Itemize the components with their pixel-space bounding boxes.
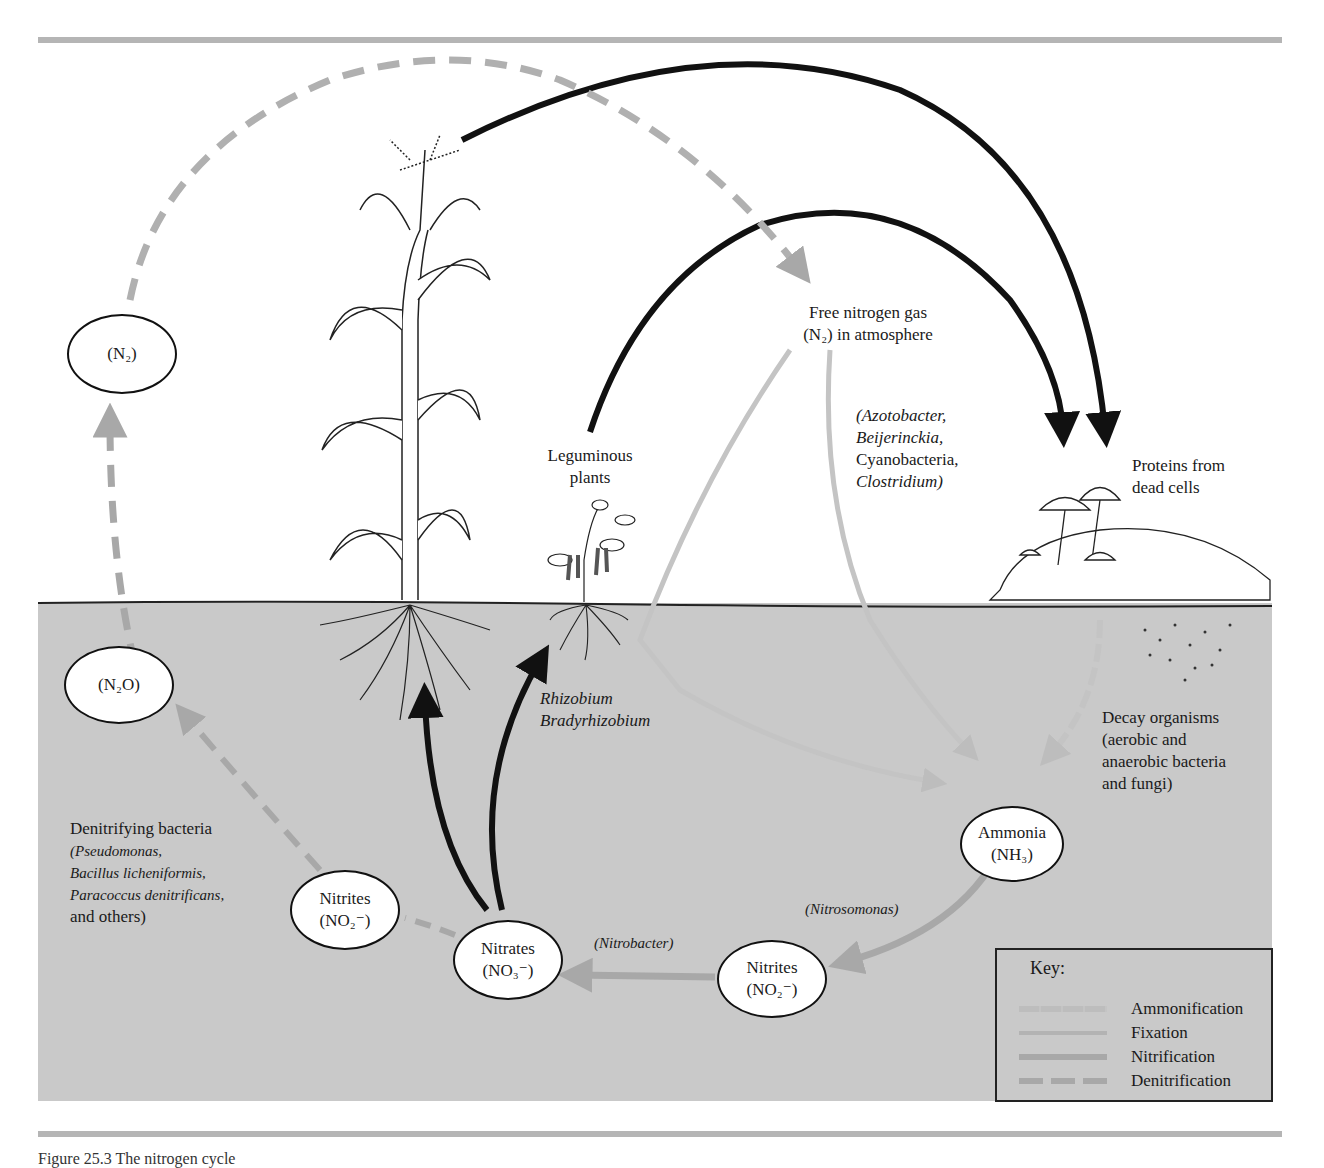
- denitrifying-others: and others): [70, 906, 224, 928]
- node-nitrates-line1: Nitrates: [481, 938, 535, 960]
- node-nitrites-left-line2: (NO₂⁻): [320, 910, 371, 932]
- nitrobacter-label: (Nitrobacter): [594, 932, 673, 954]
- arrow-ammonification-decay-to-ammonia: [1050, 620, 1100, 755]
- legume-plant-illustration: [548, 500, 635, 602]
- node-nitrates: Nitrates (NO₃⁻): [453, 920, 563, 1000]
- fixers-cyanobacteria: Cyanobacteria,: [856, 449, 958, 471]
- arrow-nitrates-to-legume-roots: [492, 660, 540, 910]
- free-living-fixers-label: (Azotobacter, Beijerinckia, Cyanobacteri…: [856, 405, 958, 493]
- legume-roots-illustration: [550, 605, 628, 660]
- node-n2: (N₂): [67, 314, 177, 394]
- rhizobium-label: Rhizobium Bradyrhizobium: [540, 688, 650, 732]
- figure-caption: Figure 25.3 The nitrogen cycle: [38, 1150, 235, 1168]
- rhizobium-text: Rhizobium: [540, 688, 650, 710]
- node-ammonia: Ammonia (NH₃): [960, 806, 1064, 882]
- leguminous-plants-label: Leguminous plants: [525, 445, 655, 489]
- node-nitrites-left-line1: Nitrites: [320, 888, 371, 910]
- fixers-azotobacter: (Azotobacter,: [856, 405, 958, 427]
- proteins-label: Proteins from dead cells: [1132, 455, 1225, 499]
- denitrifying-paracoccus: Paracoccus denitrificans,: [70, 884, 224, 906]
- bottom-rule: [38, 1131, 1282, 1137]
- denitrifying-line1: Denitrifying bacteria: [70, 818, 224, 840]
- node-nitrites-right-line2: (NO₂⁻): [747, 979, 798, 1001]
- legend-item-nitrification: Nitrification: [1019, 1046, 1215, 1068]
- node-nitrites-left: Nitrites (NO₂⁻): [290, 870, 400, 950]
- arrow-nitrates-to-corn-roots: [425, 700, 487, 910]
- decay-line3: anaerobic bacteria: [1102, 751, 1226, 773]
- node-n2o: (N₂O): [64, 646, 174, 724]
- leguminous-line2: plants: [525, 467, 655, 489]
- atmosphere-title-line1: Free nitrogen gas: [738, 302, 998, 324]
- decaying-log-illustration: [990, 488, 1270, 601]
- fixers-clostridium: Clostridium): [856, 471, 958, 493]
- legend-label: Ammonification: [1131, 999, 1243, 1019]
- denitrifying-bacillus: Bacillus licheniformis,: [70, 862, 224, 884]
- legend-label: Nitrification: [1131, 1047, 1215, 1067]
- decay-organisms-label: Decay organisms (aerobic and anaerobic b…: [1102, 707, 1226, 795]
- arrow-denitrification-nitrates-to-nitrites: [405, 918, 455, 935]
- nitrification-swatch-icon: [1019, 1054, 1107, 1060]
- arrow-corn-to-proteins: [462, 64, 1105, 430]
- node-nitrites-right: Nitrites (NO₂⁻): [717, 940, 827, 1018]
- legend-item-ammonification: Ammonification: [1019, 998, 1243, 1020]
- corn-plant-illustration: [322, 135, 490, 600]
- proteins-line1: Proteins from: [1132, 455, 1225, 477]
- fixation-swatch-icon: [1019, 1031, 1107, 1035]
- bradyrhizobium-text: Bradyrhizobium: [540, 710, 650, 732]
- node-ammonia-line1: Ammonia: [978, 822, 1046, 844]
- proteins-line2: dead cells: [1132, 477, 1225, 499]
- arrow-denitrification-n2o-to-n2: [110, 420, 135, 665]
- legend-key: Key: Ammonification Fixation Nitrificati…: [995, 948, 1273, 1102]
- legend-item-fixation: Fixation: [1019, 1022, 1188, 1044]
- decay-line4: and fungi): [1102, 773, 1226, 795]
- atmosphere-title-line2: (N₂) in atmosphere: [738, 324, 998, 346]
- ammonification-swatch-icon: [1019, 1006, 1107, 1012]
- denitrification-swatch-icon: [1019, 1078, 1107, 1084]
- node-nitrates-line2: (NO₃⁻): [483, 960, 534, 982]
- node-ammonia-line2: (NH₃): [991, 844, 1033, 866]
- arrow-nitrification-nitrites-to-nitrates: [575, 975, 715, 977]
- legend-title: Key:: [1030, 958, 1065, 979]
- node-nitrites-right-line1: Nitrites: [747, 957, 798, 979]
- node-n2o-label: (N₂O): [98, 674, 140, 696]
- decay-organisms-illustration: [1144, 624, 1232, 682]
- denitrifying-pseudomonas: (Pseudomonas,: [70, 840, 224, 862]
- leguminous-line1: Leguminous: [525, 445, 655, 467]
- decay-line2: (aerobic and: [1102, 729, 1226, 751]
- legend-label: Denitrification: [1131, 1071, 1231, 1091]
- nitrosomonas-label: (Nitrosomonas): [805, 898, 899, 920]
- atmosphere-label: Free nitrogen gas (N₂) in atmosphere: [738, 302, 998, 346]
- legend-item-denitrification: Denitrification: [1019, 1070, 1231, 1092]
- denitrifying-bacteria-label: Denitrifying bacteria (Pseudomonas, Baci…: [70, 818, 224, 928]
- decay-line1: Decay organisms: [1102, 707, 1226, 729]
- node-n2-label: (N₂): [107, 343, 137, 365]
- legend-label: Fixation: [1131, 1023, 1188, 1043]
- corn-roots-illustration: [320, 605, 490, 720]
- fixers-beijerinckia: Beijerinckia,: [856, 427, 958, 449]
